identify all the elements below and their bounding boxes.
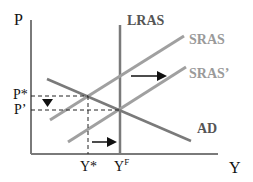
sras-curve xyxy=(50,36,184,120)
y-full-superscript: F xyxy=(124,157,129,167)
sras-label: SRAS xyxy=(189,33,225,47)
y-star-label: Y* xyxy=(80,160,97,174)
x-axis-label: Y xyxy=(229,160,241,176)
output-increase-arrow-icon xyxy=(107,137,117,147)
y-axis-label: P xyxy=(14,12,23,28)
price-decrease-arrow-icon xyxy=(42,99,53,107)
y-full-label: YF xyxy=(114,160,129,174)
p-prime-label: P’ xyxy=(14,103,26,117)
ad-label: AD xyxy=(197,122,217,136)
sras-shifted-label: SRAS’ xyxy=(189,67,229,81)
y-full-base: Y xyxy=(114,159,124,174)
p-star-label: P* xyxy=(13,88,28,102)
lras-label: LRAS xyxy=(127,14,164,28)
